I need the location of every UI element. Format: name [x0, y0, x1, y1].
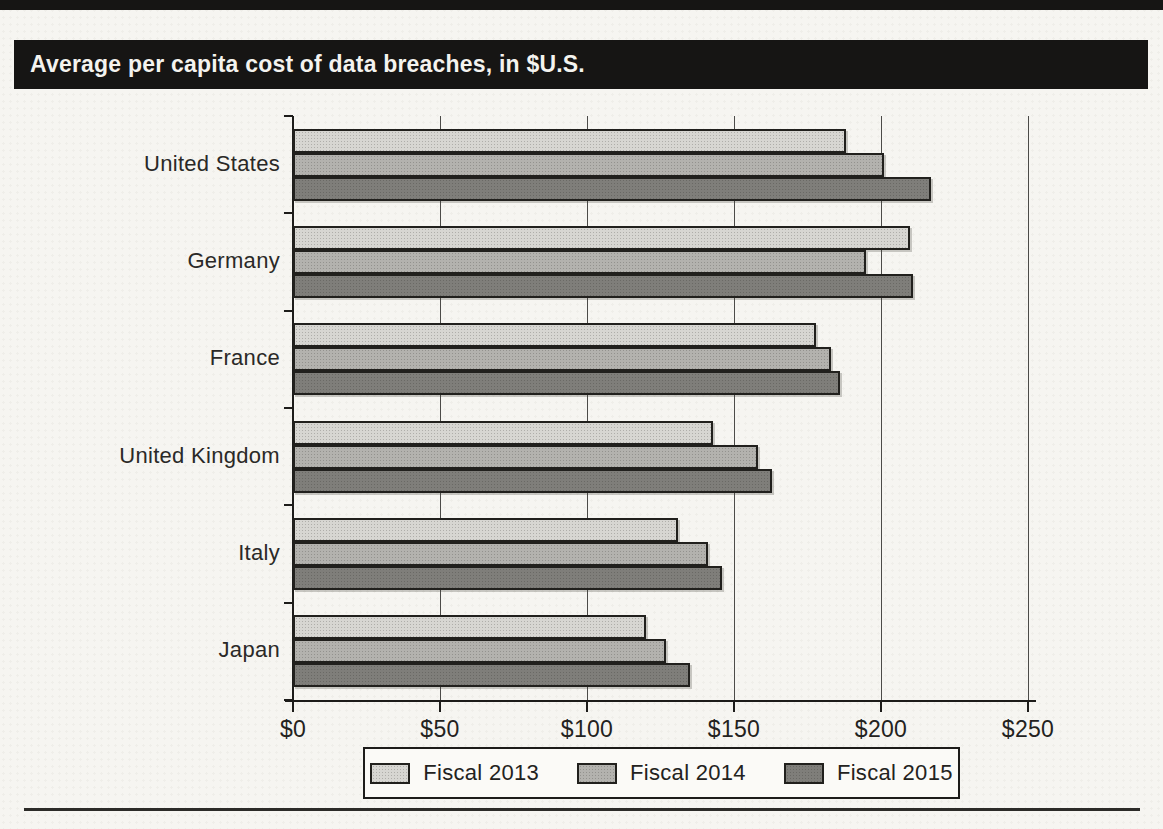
bar-germany-fiscal-2014: [293, 250, 866, 274]
legend-label-fiscal-2015: Fiscal 2015: [837, 760, 953, 786]
x-axis-tick-100: [586, 700, 588, 712]
legend-swatch-icon-fiscal-2015: [784, 763, 824, 784]
bar-united-kingdom-fiscal-2014: [293, 445, 758, 469]
y-axis-tick: [284, 310, 293, 312]
category-label-france: France: [40, 345, 280, 371]
x-axis-tick-label-100: $100: [542, 716, 632, 743]
x-axis-tick-0: [292, 700, 294, 712]
y-axis-tick: [284, 115, 293, 117]
bar-united-states-fiscal-2015: [293, 177, 931, 201]
bar-japan-fiscal-2014: [293, 639, 666, 663]
category-label-germany: Germany: [40, 248, 280, 274]
y-axis-tick: [284, 699, 293, 701]
x-axis-tick-200: [880, 700, 882, 712]
x-axis-tick-150: [733, 700, 735, 712]
y-axis-tick: [284, 407, 293, 409]
chart-plot-area: $0$50$100$150$200$250United StatesGerman…: [0, 0, 1163, 829]
bar-germany-fiscal-2015: [293, 274, 913, 298]
bar-united-kingdom-fiscal-2013: [293, 421, 713, 445]
bar-japan-fiscal-2013: [293, 615, 646, 639]
x-axis-tick-label-200: $200: [836, 716, 926, 743]
bar-united-states-fiscal-2013: [293, 129, 846, 153]
x-axis-tick-label-250: $250: [983, 716, 1073, 743]
legend-item-fiscal-2014: Fiscal 2014: [577, 760, 746, 786]
legend-swatch-icon-fiscal-2013: [370, 763, 410, 784]
bar-italy-fiscal-2015: [293, 566, 722, 590]
y-axis-line: [292, 116, 294, 702]
x-axis-tick-250: [1027, 700, 1029, 712]
bar-france-fiscal-2013: [293, 323, 816, 347]
page-bottom-rule: [24, 808, 1140, 811]
y-axis-tick: [284, 504, 293, 506]
y-axis-tick: [284, 602, 293, 604]
figure-title-bar: Average per capita cost of data breaches…: [14, 40, 1148, 89]
x-axis-tick-50: [439, 700, 441, 712]
x-axis-tick-label-50: $50: [395, 716, 485, 743]
legend-label-fiscal-2014: Fiscal 2014: [630, 760, 746, 786]
gridline-100: [587, 116, 588, 700]
gridline-200: [881, 116, 882, 700]
category-label-japan: Japan: [40, 637, 280, 663]
legend-label-fiscal-2013: Fiscal 2013: [423, 760, 539, 786]
category-label-united-states: United States: [40, 151, 280, 177]
bar-france-fiscal-2014: [293, 347, 831, 371]
x-axis-tick-label-0: $0: [248, 716, 338, 743]
x-axis-tick-label-150: $150: [689, 716, 779, 743]
figure-title: Average per capita cost of data breaches…: [14, 51, 585, 78]
gridline-250: [1028, 116, 1029, 700]
legend-item-fiscal-2015: Fiscal 2015: [784, 760, 953, 786]
bar-france-fiscal-2015: [293, 371, 840, 395]
y-axis-tick: [284, 212, 293, 214]
legend-item-fiscal-2013: Fiscal 2013: [370, 760, 539, 786]
bar-italy-fiscal-2014: [293, 542, 708, 566]
gridline-50: [440, 116, 441, 700]
chart-legend: Fiscal 2013Fiscal 2014Fiscal 2015: [363, 747, 960, 799]
legend-swatch-icon-fiscal-2014: [577, 763, 617, 784]
category-label-united-kingdom: United Kingdom: [40, 443, 280, 469]
gridline-150: [734, 116, 735, 700]
bar-italy-fiscal-2013: [293, 518, 678, 542]
bar-germany-fiscal-2013: [293, 226, 910, 250]
bar-united-states-fiscal-2014: [293, 153, 884, 177]
x-axis-line: [285, 700, 1036, 702]
category-label-italy: Italy: [40, 540, 280, 566]
bar-japan-fiscal-2015: [293, 663, 690, 687]
page-top-edge-strip: [0, 0, 1163, 10]
bar-united-kingdom-fiscal-2015: [293, 469, 772, 493]
